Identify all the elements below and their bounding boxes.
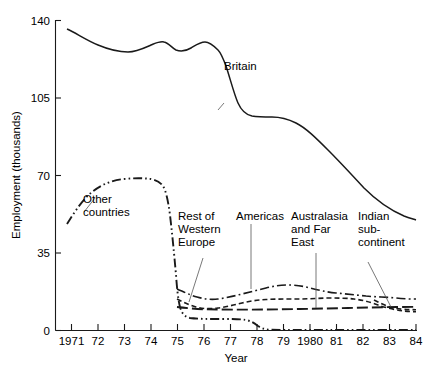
- annotation-indian-line2: sub-: [358, 223, 381, 235]
- annotation-other-countries-line1: Other: [83, 193, 112, 205]
- annotation-rest-western-europe-line2: Western: [178, 223, 221, 235]
- annotation-australasia-line2: and Far: [291, 223, 331, 235]
- employment-line-chart: 140 105 70 35 0 1971 72 73 74 7: [0, 0, 431, 372]
- annotation-australasia-line3: East: [291, 236, 315, 248]
- annotation-americas: Americas: [236, 210, 284, 222]
- x-ticks-group: 1971 72 73 74 75 76 77 78 79 1980 81 82 …: [59, 324, 423, 347]
- series-group: [67, 29, 416, 330]
- series-line-indian-sub-continent: [374, 300, 416, 310]
- leader-line-rest-we: [189, 258, 203, 302]
- y-axis-title: Employment (thousands): [10, 111, 22, 239]
- annotation-indian-line1: Indian: [358, 210, 389, 222]
- chart-svg: 140 105 70 35 0 1971 72 73 74 7: [0, 0, 431, 372]
- x-ticklabel-72: 72: [92, 335, 105, 347]
- x-ticklabel-74: 74: [145, 335, 158, 347]
- x-ticklabel-83: 83: [383, 335, 396, 347]
- x-ticklabel-84: 84: [410, 335, 423, 347]
- x-axis-title: Year: [224, 352, 247, 364]
- x-ticklabel-1971: 1971: [59, 335, 85, 347]
- x-ticklabel-77: 77: [224, 335, 237, 347]
- y-ticklabel-105: 105: [31, 92, 50, 104]
- leader-line-britain: [218, 103, 224, 110]
- annotations-group: Britain Other countries Rest of Western …: [83, 60, 405, 248]
- y-ticklabel-0: 0: [44, 325, 50, 337]
- x-ticklabel-73: 73: [118, 335, 131, 347]
- y-ticklabel-140: 140: [31, 15, 50, 27]
- x-ticklabel-79: 79: [277, 335, 290, 347]
- leader-lines-group: [84, 103, 391, 308]
- x-ticklabel-76: 76: [198, 335, 211, 347]
- annotation-britain: Britain: [224, 60, 257, 72]
- series-line-americas: [177, 285, 416, 299]
- annotation-indian-line3: continent: [358, 236, 405, 248]
- annotation-rest-western-europe-line1: Rest of: [178, 210, 215, 222]
- annotation-australasia-line1: Australasia: [291, 210, 348, 222]
- annotation-other-countries-line2: countries: [83, 206, 130, 218]
- x-ticklabel-78: 78: [251, 335, 264, 347]
- x-ticklabel-81: 81: [330, 335, 343, 347]
- y-ticklabel-70: 70: [37, 170, 50, 182]
- y-ticklabel-35: 35: [37, 247, 50, 259]
- y-ticks-group: 140 105 70 35 0: [31, 15, 61, 337]
- series-line-britain: [67, 29, 416, 220]
- leader-line-indian: [368, 262, 391, 307]
- x-ticklabel-82: 82: [357, 335, 370, 347]
- annotation-rest-western-europe-line3: Europe: [178, 236, 215, 248]
- series-line-australasia-far-east: [177, 307, 416, 310]
- x-ticklabel-75: 75: [171, 335, 184, 347]
- x-ticklabel-1980: 1980: [297, 335, 323, 347]
